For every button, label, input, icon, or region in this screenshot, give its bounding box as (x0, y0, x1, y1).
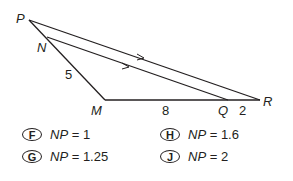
choice-variable: NP (188, 127, 206, 142)
segment-NQ (47, 37, 228, 100)
choice-variable: NP (50, 127, 68, 142)
length-nm: 5 (65, 68, 72, 81)
choice-value: = 1.6 (210, 127, 239, 142)
answer-bubble-icon[interactable]: J (160, 150, 180, 163)
choice-variable: NP (188, 149, 206, 164)
length-mq: 8 (162, 104, 169, 117)
answer-bubble-icon[interactable]: F (22, 128, 42, 141)
vertex-label-p: P (16, 12, 25, 25)
choice-f[interactable]: F NP = 1 (22, 127, 90, 142)
vertex-label-q: Q (218, 104, 228, 117)
choice-value: = 2 (210, 149, 228, 164)
vertex-label-n: N (37, 41, 46, 54)
answer-bubble-icon[interactable]: G (22, 150, 42, 163)
vertex-label-r: R (263, 95, 272, 108)
choice-value: = 1 (72, 127, 90, 142)
vertex-label-m: M (91, 104, 102, 117)
answer-bubble-icon[interactable]: H (160, 128, 180, 141)
choice-variable: NP (50, 149, 68, 164)
choice-h[interactable]: H NP = 1.6 (160, 127, 239, 142)
choice-j[interactable]: J NP = 2 (160, 149, 228, 164)
choice-value: = 1.25 (72, 149, 109, 164)
length-qr: 2 (239, 104, 246, 117)
segment-PM (29, 20, 105, 100)
choice-g[interactable]: G NP = 1.25 (22, 149, 108, 164)
segment-PR (29, 20, 260, 100)
